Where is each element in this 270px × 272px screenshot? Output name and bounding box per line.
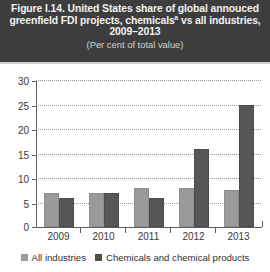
- figure-title-line-2b: vs all industries,: [178, 15, 260, 26]
- y-axis-label-30: 30: [18, 76, 29, 87]
- figure-title-line-2a: greenfield FDI projects, chemicals: [9, 15, 174, 26]
- x-tick-2012: [215, 227, 216, 233]
- x-tick-2010: [125, 227, 126, 233]
- figure-title-line-3: 2009–2013: [109, 26, 160, 37]
- y-axis-label-15: 15: [18, 149, 29, 160]
- bar-all-industries-2012[interactable]: [179, 188, 194, 227]
- bar-chemicals-2012[interactable]: [194, 149, 209, 227]
- bar-chemicals-2010[interactable]: [104, 193, 119, 227]
- x-tick-2009: [80, 227, 81, 233]
- bar-chemicals-2011[interactable]: [149, 198, 164, 227]
- y-axis-label-25: 25: [18, 100, 29, 111]
- bar-all-industries-2013[interactable]: [224, 190, 239, 227]
- bar-group-2013: 2013: [216, 80, 261, 227]
- figure-title: Figure I.14. United States share of glob…: [6, 3, 264, 38]
- y-axis-label-20: 20: [18, 125, 29, 136]
- figure-container: Figure I.14. United States share of glob…: [0, 0, 270, 272]
- bar-group-2010: 2010: [81, 80, 126, 227]
- legend-item-chemicals[interactable]: Chemicals and chemical products: [95, 252, 249, 263]
- x-tick-2011: [170, 227, 171, 233]
- bar-group-2009: 2009: [36, 80, 81, 227]
- x-axis-label-2013: 2013: [227, 231, 249, 242]
- x-axis-end-tick: [262, 221, 263, 227]
- plot-area: 30 25 20 15 10 5: [0, 64, 270, 272]
- legend-label-all-industries: All industries: [32, 252, 86, 263]
- x-axis-label-2010: 2010: [92, 231, 114, 242]
- legend-item-all-industries[interactable]: All industries: [21, 252, 86, 263]
- figure-subtitle: (Per cent of total value): [6, 39, 264, 50]
- bar-all-industries-2010[interactable]: [89, 193, 104, 227]
- bar-group-2011: 2011: [126, 80, 171, 227]
- y-tick-0: [32, 227, 36, 228]
- bar-groups: 2009 2010 2011: [36, 80, 261, 227]
- y-axis-label-10: 10: [18, 174, 29, 185]
- figure-title-line-1: Figure I.14. United States share of glob…: [11, 3, 259, 14]
- legend-label-chemicals: Chemicals and chemical products: [106, 252, 249, 263]
- chart-legend: All industries Chemicals and chemical pr…: [0, 252, 270, 272]
- x-axis-label-2009: 2009: [47, 231, 69, 242]
- bar-all-industries-2009[interactable]: [44, 193, 59, 227]
- x-axis-label-2011: 2011: [138, 231, 160, 242]
- figure-header: Figure I.14. United States share of glob…: [0, 0, 270, 62]
- bar-chemicals-2013[interactable]: [239, 105, 254, 228]
- plot-inner: 30 25 20 15 10 5: [36, 80, 261, 227]
- bar-group-2012: 2012: [171, 80, 216, 227]
- square-swatch-icon: [21, 254, 28, 261]
- x-axis-label-2012: 2012: [182, 231, 204, 242]
- bar-all-industries-2011[interactable]: [134, 188, 149, 227]
- y-axis-label-0: 0: [23, 222, 29, 233]
- y-axis-label-5: 5: [23, 198, 29, 209]
- bar-chemicals-2009[interactable]: [59, 198, 74, 227]
- square-swatch-icon: [95, 254, 102, 261]
- x-axis-line: [36, 227, 262, 228]
